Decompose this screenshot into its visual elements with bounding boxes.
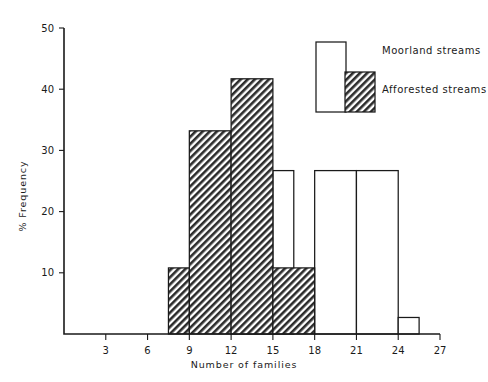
histogram-bar bbox=[189, 131, 231, 334]
x-tick-label: 3 bbox=[103, 345, 109, 356]
x-tick-label: 27 bbox=[434, 345, 447, 356]
x-tick-marks bbox=[106, 334, 440, 340]
histogram-bar bbox=[315, 171, 357, 334]
histogram-bar bbox=[168, 268, 189, 334]
x-tick-label: 9 bbox=[186, 345, 192, 356]
legend-label-moorland: Moorland streams bbox=[382, 45, 481, 56]
x-tick-label: 18 bbox=[308, 345, 321, 356]
histogram-figure: 1020304050 369121518212427 Number of fam… bbox=[0, 0, 488, 382]
chart-canvas: 1020304050 369121518212427 Number of fam… bbox=[0, 0, 488, 382]
histogram-bar bbox=[231, 79, 273, 334]
y-tick-label: 30 bbox=[41, 145, 54, 156]
legend: Moorland streams Afforested streams bbox=[316, 42, 487, 112]
y-tick-label: 50 bbox=[41, 23, 54, 34]
x-tick-label: 24 bbox=[392, 345, 405, 356]
x-tick-label: 15 bbox=[267, 345, 280, 356]
y-tick-label: 10 bbox=[41, 267, 54, 278]
legend-swatch-afforested bbox=[345, 72, 375, 112]
histogram-bar bbox=[273, 268, 315, 334]
legend-swatch-moorland bbox=[316, 42, 346, 112]
x-axis-title: Number of families bbox=[191, 359, 298, 370]
y-axis-title: % Frequency bbox=[17, 160, 28, 231]
histogram-bar bbox=[398, 317, 419, 334]
x-tick-label: 12 bbox=[225, 345, 238, 356]
y-tick-label: 20 bbox=[41, 206, 54, 217]
y-tick-labels: 1020304050 bbox=[41, 23, 54, 279]
x-tick-labels: 369121518212427 bbox=[103, 345, 447, 356]
x-tick-label: 6 bbox=[144, 345, 150, 356]
x-tick-label: 21 bbox=[350, 345, 363, 356]
legend-label-afforested: Afforested streams bbox=[382, 84, 487, 95]
histogram-bar bbox=[356, 171, 398, 334]
y-tick-label: 40 bbox=[41, 84, 54, 95]
